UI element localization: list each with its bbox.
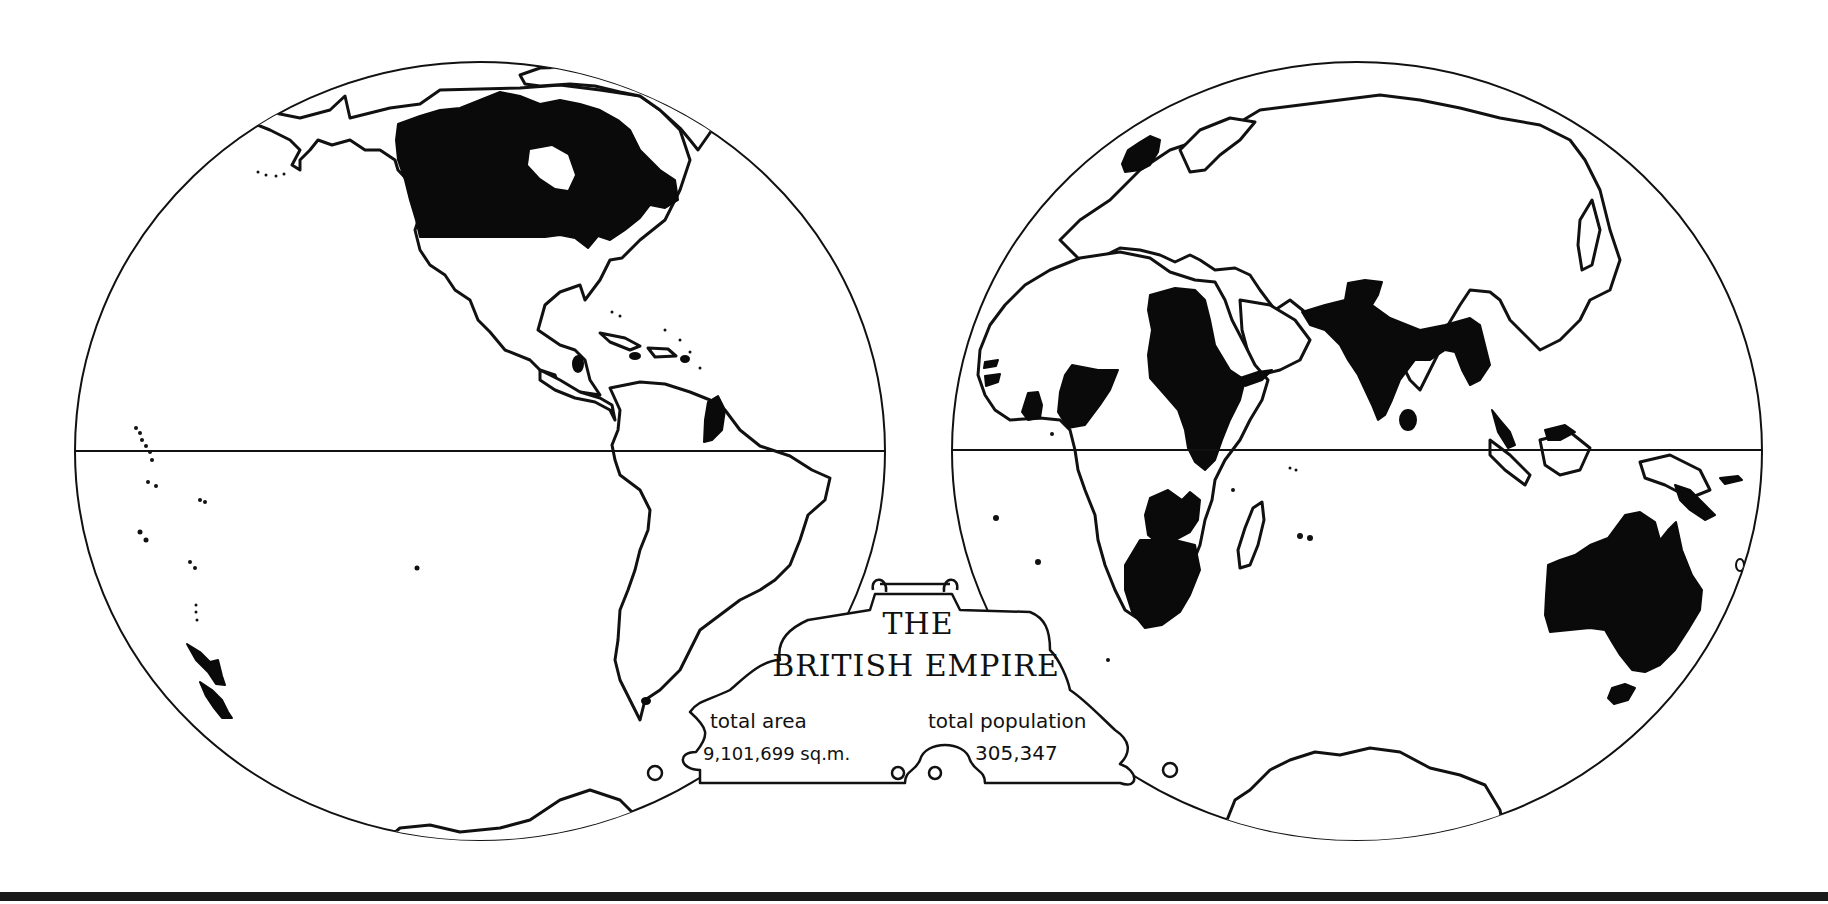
territory-falkland-islands	[642, 698, 650, 704]
total-area-label: total area	[710, 709, 807, 733]
territory-gambia	[984, 360, 998, 368]
british-empire-map: THE BRITISH EMPIRE total area 9,101,699 …	[0, 0, 1828, 904]
territory-ceylon	[1400, 410, 1416, 430]
total-population-label: total population	[928, 709, 1087, 733]
territory-jamaica	[630, 353, 640, 359]
total-area-value: 9,101,699 sq.m.	[703, 743, 850, 764]
cartouche-top-scroll	[873, 580, 958, 592]
map-title-line1: THE	[882, 606, 953, 641]
territory-leeward-islands	[681, 356, 689, 362]
total-population-value: 305,347	[975, 741, 1058, 765]
bottom-border-rule	[0, 892, 1828, 901]
territory-british-honduras	[573, 356, 583, 372]
map-title-line2: BRITISH EMPIRE	[772, 648, 1060, 683]
